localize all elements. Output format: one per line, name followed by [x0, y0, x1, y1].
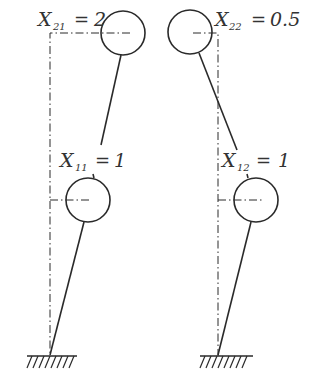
right-mechanism — [168, 10, 278, 368]
label-x11-eq: = — [95, 150, 110, 171]
label-x21-var: X — [36, 8, 53, 30]
left-mechanism — [27, 11, 145, 368]
label-x21-eq: = — [74, 9, 89, 30]
left-joint-tick — [93, 174, 94, 178]
label-x12-eq: = — [256, 150, 271, 171]
label-x12-sub: 12 — [237, 162, 250, 173]
label-x22-value: 0.5 — [270, 8, 300, 30]
label-x12-value: 1 — [278, 149, 290, 171]
label-x11-var: X — [58, 149, 75, 171]
left-ground — [27, 356, 77, 368]
label-x21-value: 2 — [93, 8, 106, 30]
right-joint-tick — [247, 174, 248, 178]
label-x11-sub: 11 — [75, 162, 88, 173]
label-x22-eq: = — [251, 9, 266, 30]
label-x21-sub: 21 — [52, 21, 66, 32]
label-x11-value: 1 — [114, 149, 126, 171]
label-x12-var: X — [220, 149, 237, 171]
label-x11: X 11 = 1 — [58, 149, 126, 173]
label-x21: X 21 = 2 — [36, 8, 106, 32]
right-reference-line-upper — [193, 33, 218, 356]
label-x12: X 12 = 1 — [220, 149, 290, 173]
linkage-diagram: X 21 = 2 X 22 = 0.5 X 11 = 1 X 12 = 1 — [0, 0, 311, 381]
label-x22: X 22 = 0.5 — [213, 8, 300, 32]
right-lower-rod — [218, 222, 251, 355]
right-upper-mass — [168, 10, 212, 54]
label-x22-var: X — [213, 8, 230, 30]
left-upper-rod — [101, 55, 121, 145]
right-ground — [200, 356, 253, 368]
left-lower-rod — [50, 222, 84, 355]
label-x22-sub: 22 — [228, 21, 242, 32]
